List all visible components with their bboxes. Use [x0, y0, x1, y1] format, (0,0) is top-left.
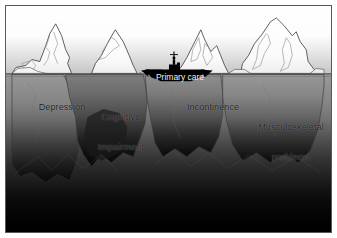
deep-water-fade	[6, 117, 331, 232]
figure-border: Depression Cognitive Impairment Incontin…	[5, 5, 332, 233]
figure-frame: Depression Cognitive Impairment Incontin…	[0, 0, 337, 238]
ship-funnel-icon	[177, 63, 180, 71]
person-on-deck-icon	[172, 57, 175, 65]
iceberg-scene	[6, 6, 331, 232]
